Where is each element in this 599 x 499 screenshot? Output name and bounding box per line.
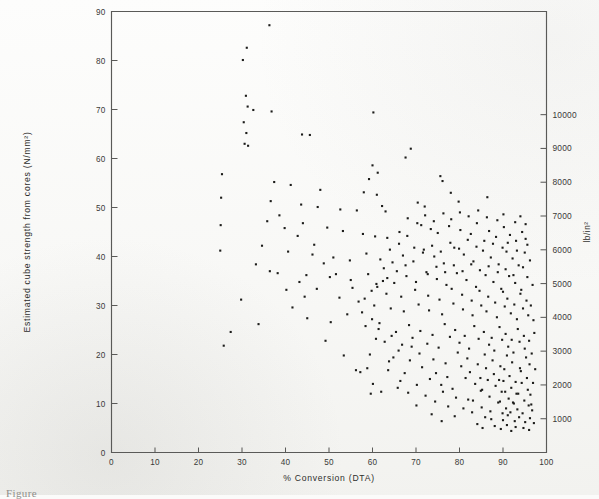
data-point	[376, 286, 378, 288]
y2-tick-label: 6000	[553, 245, 573, 255]
x-tick-label: 80	[455, 458, 465, 467]
data-point	[434, 400, 436, 402]
data-point	[522, 266, 524, 268]
data-point	[505, 268, 507, 270]
data-point	[526, 244, 528, 246]
data-point	[485, 274, 487, 276]
data-point	[477, 209, 479, 211]
data-point	[244, 143, 246, 145]
data-point	[508, 275, 510, 277]
data-point	[448, 225, 450, 227]
data-point	[413, 247, 415, 249]
data-point	[447, 405, 449, 407]
data-point	[388, 360, 390, 362]
data-point	[277, 272, 279, 274]
data-point	[269, 270, 271, 272]
data-point	[419, 330, 421, 332]
data-point	[529, 259, 531, 261]
data-point	[242, 59, 244, 61]
x-tick-label: 40	[281, 458, 291, 467]
data-point	[441, 180, 443, 182]
data-point	[501, 391, 503, 393]
y2-tick-label: 8000	[553, 177, 573, 187]
data-point	[502, 380, 504, 382]
data-point	[284, 227, 286, 229]
data-point	[532, 382, 534, 384]
data-point	[391, 261, 393, 263]
axes-frame	[112, 12, 547, 453]
data-point	[525, 356, 527, 358]
data-point	[502, 419, 504, 421]
data-point	[398, 350, 400, 352]
data-point	[477, 363, 479, 365]
data-point	[458, 248, 460, 250]
data-point	[338, 297, 340, 299]
x-axis-ticks: 0102030405060708090100	[109, 448, 554, 467]
data-point	[411, 337, 413, 339]
data-point	[500, 288, 502, 290]
data-point	[304, 296, 306, 298]
data-point	[528, 363, 530, 365]
data-point	[391, 335, 393, 337]
data-point	[486, 216, 488, 218]
data-point	[384, 341, 386, 343]
data-point	[424, 205, 426, 207]
data-point	[454, 415, 456, 417]
data-point	[469, 371, 471, 373]
data-point	[247, 145, 249, 147]
data-point	[425, 395, 427, 397]
data-point	[499, 400, 501, 402]
data-point	[438, 299, 440, 301]
data-point	[524, 252, 526, 254]
data-point	[453, 247, 455, 249]
data-point	[403, 310, 405, 312]
data-point	[515, 426, 517, 428]
data-point	[316, 288, 318, 290]
data-point	[385, 210, 387, 212]
data-point	[498, 326, 500, 328]
data-point	[484, 353, 486, 355]
data-point	[514, 282, 516, 284]
data-point	[492, 281, 494, 283]
data-point	[221, 173, 223, 175]
data-point	[525, 223, 527, 225]
data-point	[503, 226, 505, 228]
data-point	[436, 278, 438, 280]
data-point	[504, 305, 506, 307]
data-point	[512, 274, 514, 276]
data-point	[445, 362, 447, 364]
data-point	[488, 230, 490, 232]
data-point	[428, 309, 430, 311]
data-point	[364, 325, 366, 327]
data-point	[418, 303, 420, 305]
data-point	[390, 307, 392, 309]
x-tick-label: 0	[109, 458, 114, 467]
data-point	[501, 339, 503, 341]
data-point	[441, 313, 443, 315]
data-point	[398, 231, 400, 233]
data-point	[481, 406, 483, 408]
data-point	[438, 347, 440, 349]
data-point	[412, 260, 414, 262]
data-point	[526, 377, 528, 379]
data-point	[522, 307, 524, 309]
data-point	[494, 425, 496, 427]
data-point	[502, 291, 504, 293]
data-point	[457, 351, 459, 353]
data-point	[502, 247, 504, 249]
data-point	[517, 328, 519, 330]
data-point	[499, 365, 501, 367]
data-point	[379, 258, 381, 260]
data-point	[493, 373, 495, 375]
axis-frame-path	[112, 12, 547, 453]
data-point	[505, 333, 507, 335]
data-point	[490, 418, 492, 420]
data-point	[510, 387, 512, 389]
data-point	[503, 368, 505, 370]
data-point	[507, 242, 509, 244]
data-point	[450, 192, 452, 194]
data-point	[527, 314, 529, 316]
data-point	[470, 233, 472, 235]
data-point	[417, 202, 419, 204]
data-point	[425, 271, 427, 273]
